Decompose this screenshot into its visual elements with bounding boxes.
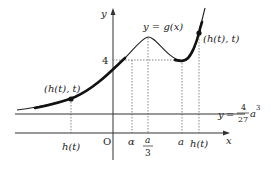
point-left <box>68 96 73 101</box>
y-axis-label: y <box>100 8 107 19</box>
svg-text:4: 4 <box>241 103 246 112</box>
curve-label: y = g(x) <box>142 21 183 32</box>
y-tick-4: 4 <box>102 55 108 66</box>
svg-text:27: 27 <box>238 115 248 124</box>
svg-text:a: a <box>145 135 150 145</box>
x-tick-a: a <box>178 136 184 147</box>
y-axis-arrow-icon <box>111 8 116 15</box>
graph-figure: x y O 4 (h(t), t) (h(t), t) y = g(x) h(t… <box>0 0 271 172</box>
x-tick-alpha: α <box>128 136 135 147</box>
y-axis <box>111 8 116 160</box>
origin-label: O <box>103 136 111 147</box>
svg-text:=: = <box>226 109 234 120</box>
point-right <box>196 30 201 35</box>
point-right-label: (h(t), t) <box>203 33 240 44</box>
svg-text:3: 3 <box>145 148 151 158</box>
svg-text:y: y <box>217 109 224 120</box>
x-tick-h-left: h(t) <box>62 141 80 152</box>
x-tick-a-over-3: a 3 <box>143 135 153 158</box>
x-axis-label: x <box>226 135 232 146</box>
x-tick-h-right: h(t) <box>190 138 208 149</box>
svg-text:3: 3 <box>256 104 260 112</box>
point-left-label: (h(t), t) <box>44 83 81 94</box>
x-axis <box>15 131 230 136</box>
